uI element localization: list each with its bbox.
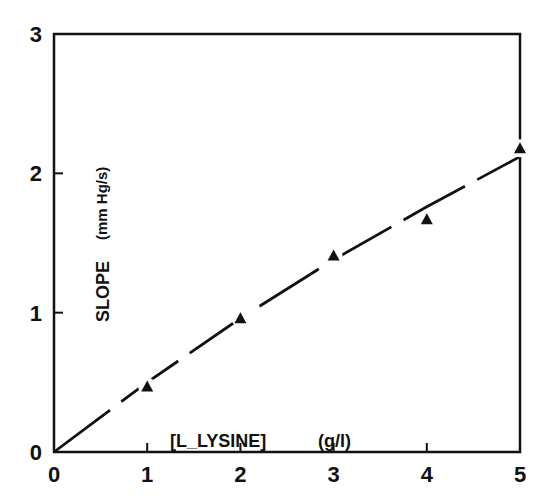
chart: 0123450123 [L_LYSINE] (g/l) SLOPE (mm Hg…: [0, 0, 552, 502]
y-axis-unit: (mm Hg/s): [93, 167, 110, 240]
x-tick-label: 0: [48, 462, 60, 487]
x-tick-label: 5: [514, 462, 526, 487]
x-axis-title: [L_LYSINE]: [170, 431, 266, 451]
x-tick-label: 2: [234, 462, 246, 487]
y-tick-label: 2: [30, 161, 42, 186]
axis-ticks: 0123450123: [30, 22, 526, 487]
x-tick-label: 3: [327, 462, 339, 487]
plot-frame: [54, 34, 520, 452]
x-tick-label: 4: [421, 462, 434, 487]
x-axis-unit: (g/l): [318, 431, 351, 451]
x-tick-label: 1: [141, 462, 153, 487]
fit-line: [54, 157, 520, 452]
y-tick-label: 3: [30, 22, 42, 47]
data-points: [138, 139, 529, 395]
y-tick-label: 1: [30, 301, 42, 326]
y-axis-title: SLOPE: [93, 261, 113, 322]
y-tick-label: 0: [30, 440, 42, 465]
